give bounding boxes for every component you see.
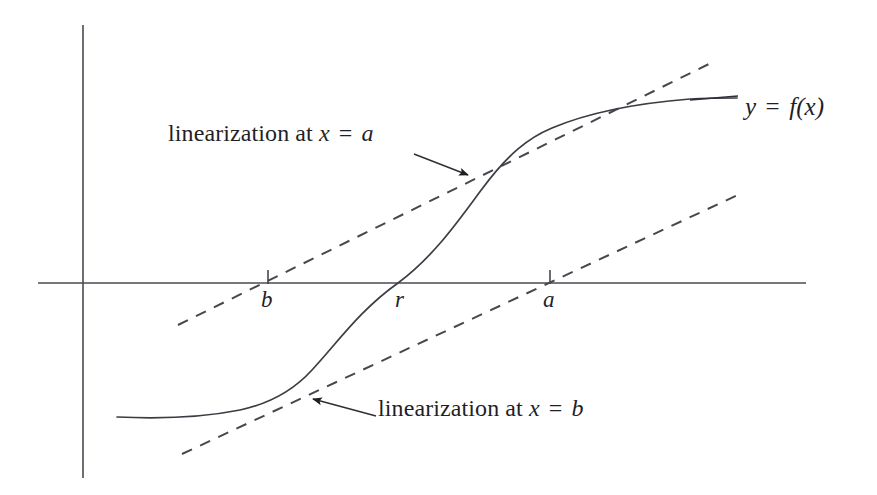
annotation-b-prefix: linearization at <box>378 395 523 421</box>
annotation-linearization-at-a: linearization at x = a <box>168 121 374 145</box>
annotation-arrow-b <box>313 399 376 416</box>
annotation-linearization-at-b: linearization at x = b <box>378 396 584 420</box>
curve-equation-label: y = f(x) <box>745 94 824 119</box>
annotation-a-variable: x <box>319 120 330 146</box>
tangent-line-at-a <box>178 62 713 325</box>
axis-label-b: b <box>261 288 273 311</box>
annotation-b-point: b <box>572 395 584 421</box>
annotation-a-point: a <box>362 120 374 146</box>
annotation-a-prefix: linearization at <box>168 120 313 146</box>
curve-label-y: y <box>745 93 756 120</box>
curve-label-equals: = <box>763 93 783 120</box>
annotation-b-variable: x <box>529 395 540 421</box>
axis-label-a: a <box>543 288 555 311</box>
linearization-figure: linearization at x = a linearization at … <box>0 0 877 495</box>
curve-label-fx: f(x) <box>789 93 824 120</box>
axis-label-r: r <box>395 288 404 311</box>
annotation-arrow-a <box>414 154 468 175</box>
annotation-b-equals: = <box>546 395 566 421</box>
annotation-a-equals: = <box>336 120 356 146</box>
